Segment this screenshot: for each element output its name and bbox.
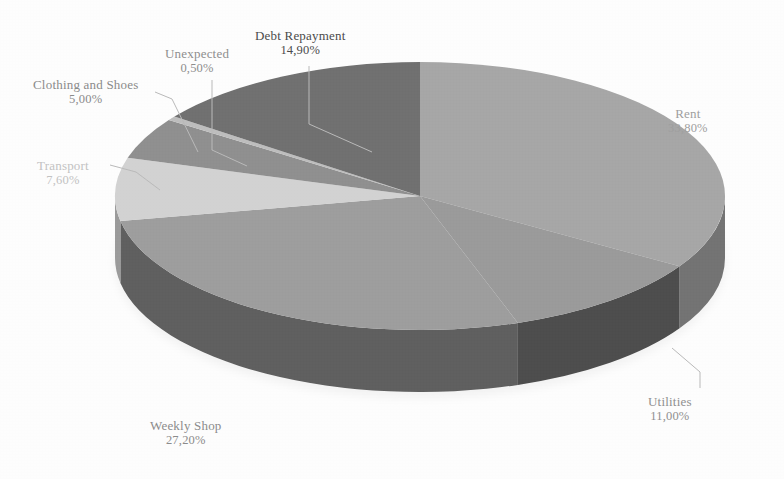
slice-label-rent-value: 33,80% bbox=[668, 121, 708, 136]
slice-label-debt-repayment-value: 14,90% bbox=[255, 43, 346, 58]
slice-label-unexpected-name: Unexpected bbox=[165, 46, 229, 61]
slice-label-weekly-shop-value: 27,20% bbox=[150, 433, 222, 448]
slice-label-clothing-and-shoes-value: 5,00% bbox=[33, 92, 138, 107]
slice-label-clothing-and-shoes: Clothing and Shoes 5,00% bbox=[33, 77, 138, 107]
pie-top-faces bbox=[115, 62, 725, 330]
slice-label-transport-name: Transport bbox=[37, 158, 89, 173]
pie-chart: Debt Repayment 14,90% Unexpected 0,50% C… bbox=[0, 0, 784, 479]
slice-label-rent: Rent 33,80% bbox=[668, 106, 708, 136]
slice-label-unexpected-value: 0,50% bbox=[165, 61, 229, 76]
slice-label-utilities: Utilities 11,00% bbox=[648, 394, 692, 424]
slice-label-transport-value: 7,60% bbox=[37, 173, 89, 188]
slice-label-rent-name: Rent bbox=[668, 106, 708, 121]
slice-label-utilities-name: Utilities bbox=[648, 394, 692, 409]
slice-label-debt-repayment: Debt Repayment 14,90% bbox=[255, 28, 346, 58]
slice-label-clothing-and-shoes-name: Clothing and Shoes bbox=[33, 77, 138, 92]
slice-label-utilities-value: 11,00% bbox=[648, 409, 692, 424]
leader-line-utilities bbox=[672, 348, 700, 388]
slice-label-unexpected: Unexpected 0,50% bbox=[165, 46, 229, 76]
slice-label-weekly-shop-name: Weekly Shop bbox=[150, 418, 222, 433]
slice-label-transport: Transport 7,60% bbox=[37, 158, 89, 188]
slice-label-debt-repayment-name: Debt Repayment bbox=[255, 28, 346, 43]
slice-label-weekly-shop: Weekly Shop 27,20% bbox=[150, 418, 222, 448]
